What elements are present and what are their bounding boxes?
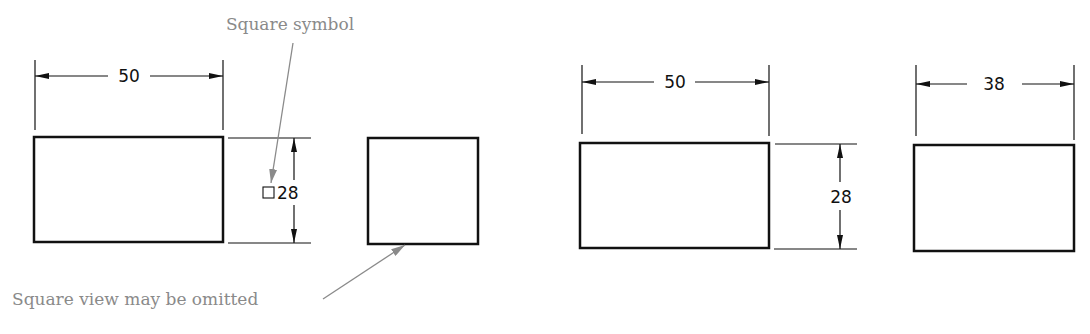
width-dimension-right: 50 (582, 72, 769, 92)
height-dimension: 28 (263, 138, 299, 243)
front-view-rect-right (580, 143, 769, 248)
side-width-dimension-right: 38 (916, 74, 1074, 94)
drawing-canvas: 50 28 Square symbol Square view may be o… (0, 0, 1090, 334)
height-dim-value: 28 (277, 183, 299, 203)
side-width-dim-value: 38 (983, 74, 1005, 94)
right-figure: 50 28 38 (580, 65, 1074, 251)
front-view-rect (34, 137, 223, 242)
left-figure: 50 28 Square symbol Square view may be o… (12, 14, 478, 309)
height-dimension-right: 28 (830, 144, 852, 249)
square-symbol-icon (263, 187, 274, 198)
side-view-rect-right (914, 145, 1074, 251)
height-dim-value-right: 28 (830, 187, 852, 207)
width-dimension: 50 (35, 66, 223, 86)
width-dim-value: 50 (118, 66, 140, 86)
side-view-square (368, 138, 478, 244)
callout-leader-square-symbol (271, 43, 293, 183)
callout-leader-omitted (323, 245, 405, 299)
callout-square-view-omitted: Square view may be omitted (12, 289, 258, 309)
callout-square-symbol: Square symbol (226, 14, 354, 34)
width-dim-value-right: 50 (664, 72, 686, 92)
